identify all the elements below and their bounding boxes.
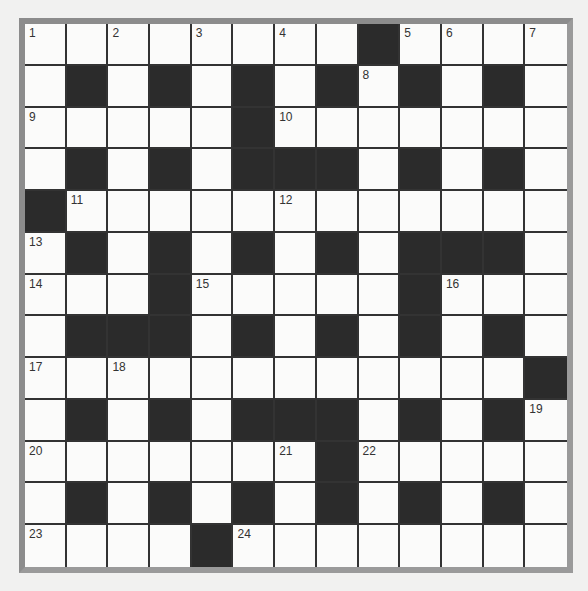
answer-cell[interactable] [108,275,150,317]
answer-cell[interactable] [525,149,567,191]
answer-cell[interactable]: 9 [25,108,67,150]
answer-cell[interactable] [442,66,484,108]
answer-cell[interactable] [400,442,442,484]
answer-cell[interactable]: 8 [359,66,401,108]
answer-cell[interactable]: 1 [25,24,67,66]
answer-cell[interactable] [484,358,526,400]
answer-cell[interactable] [192,191,234,233]
answer-cell[interactable] [484,525,526,567]
answer-cell[interactable] [275,316,317,358]
answer-cell[interactable] [150,108,192,150]
answer-cell[interactable] [317,108,359,150]
answer-cell[interactable] [359,275,401,317]
answer-cell[interactable] [484,108,526,150]
answer-cell[interactable] [233,24,275,66]
answer-cell[interactable] [484,191,526,233]
answer-cell[interactable] [525,191,567,233]
answer-cell[interactable] [67,24,109,66]
answer-cell[interactable] [442,400,484,442]
answer-cell[interactable] [192,316,234,358]
answer-cell[interactable] [25,483,67,525]
answer-cell[interactable] [359,358,401,400]
answer-cell[interactable] [108,233,150,275]
answer-cell[interactable]: 5 [400,24,442,66]
answer-cell[interactable]: 3 [192,24,234,66]
answer-cell[interactable] [359,149,401,191]
answer-cell[interactable]: 4 [275,24,317,66]
answer-cell[interactable] [525,483,567,525]
answer-cell[interactable] [25,400,67,442]
answer-cell[interactable] [275,525,317,567]
answer-cell[interactable]: 15 [192,275,234,317]
answer-cell[interactable] [150,525,192,567]
answer-cell[interactable] [525,66,567,108]
answer-cell[interactable] [359,108,401,150]
answer-cell[interactable] [192,66,234,108]
answer-cell[interactable] [192,400,234,442]
answer-cell[interactable] [150,24,192,66]
answer-cell[interactable] [525,108,567,150]
answer-cell[interactable] [525,525,567,567]
answer-cell[interactable] [484,442,526,484]
answer-cell[interactable]: 16 [442,275,484,317]
answer-cell[interactable] [400,358,442,400]
answer-cell[interactable] [317,358,359,400]
answer-cell[interactable]: 6 [442,24,484,66]
answer-cell[interactable] [275,483,317,525]
answer-cell[interactable]: 23 [25,525,67,567]
answer-cell[interactable] [400,525,442,567]
answer-cell[interactable] [275,233,317,275]
answer-cell[interactable] [233,191,275,233]
answer-cell[interactable] [275,358,317,400]
answer-cell[interactable] [442,191,484,233]
answer-cell[interactable] [484,275,526,317]
answer-cell[interactable] [67,275,109,317]
answer-cell[interactable] [317,525,359,567]
answer-cell[interactable] [192,149,234,191]
answer-cell[interactable]: 21 [275,442,317,484]
answer-cell[interactable] [192,483,234,525]
answer-cell[interactable] [525,275,567,317]
answer-cell[interactable] [442,149,484,191]
answer-cell[interactable] [67,358,109,400]
answer-cell[interactable] [233,275,275,317]
answer-cell[interactable] [400,191,442,233]
answer-cell[interactable]: 13 [25,233,67,275]
answer-cell[interactable] [525,442,567,484]
answer-cell[interactable] [192,233,234,275]
answer-cell[interactable] [108,400,150,442]
answer-cell[interactable] [442,108,484,150]
answer-cell[interactable] [275,66,317,108]
answer-cell[interactable] [442,525,484,567]
answer-cell[interactable] [150,191,192,233]
answer-cell[interactable] [442,316,484,358]
answer-cell[interactable] [359,525,401,567]
answer-cell[interactable] [67,525,109,567]
answer-cell[interactable] [484,24,526,66]
answer-cell[interactable] [525,233,567,275]
answer-cell[interactable] [442,358,484,400]
answer-cell[interactable] [525,316,567,358]
answer-cell[interactable]: 12 [275,191,317,233]
answer-cell[interactable] [317,191,359,233]
answer-cell[interactable]: 7 [525,24,567,66]
answer-cell[interactable] [359,483,401,525]
answer-cell[interactable] [108,66,150,108]
answer-cell[interactable] [233,442,275,484]
answer-cell[interactable]: 20 [25,442,67,484]
answer-cell[interactable]: 24 [233,525,275,567]
answer-cell[interactable] [359,316,401,358]
answer-cell[interactable] [317,275,359,317]
answer-cell[interactable] [400,108,442,150]
answer-cell[interactable]: 22 [359,442,401,484]
answer-cell[interactable] [25,66,67,108]
answer-cell[interactable] [192,442,234,484]
answer-cell[interactable] [317,24,359,66]
answer-cell[interactable] [233,358,275,400]
answer-cell[interactable] [108,108,150,150]
answer-cell[interactable]: 19 [525,400,567,442]
answer-cell[interactable] [359,400,401,442]
answer-cell[interactable] [359,191,401,233]
answer-cell[interactable]: 10 [275,108,317,150]
answer-cell[interactable] [108,442,150,484]
